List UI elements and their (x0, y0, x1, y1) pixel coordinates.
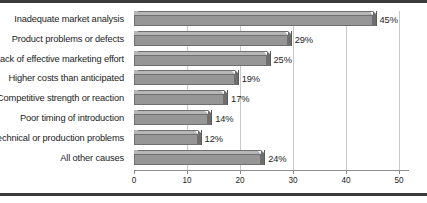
bar (134, 11, 373, 22)
bar-front-face (134, 94, 224, 105)
bar (134, 51, 267, 62)
category-label: Technical or production problems (0, 132, 124, 144)
x-axis-tick-label: 50 (394, 176, 403, 185)
x-axis-tick (187, 170, 188, 174)
x-axis-line (134, 170, 409, 171)
bar-top-edge (138, 70, 235, 71)
bar-top-edge (138, 130, 198, 131)
bar-value-label: 19% (242, 74, 260, 84)
category-label: Product problems or defects (12, 33, 124, 45)
bar-side-edge (227, 90, 228, 105)
x-axis-tick (240, 170, 241, 174)
bar-side-edge (264, 150, 265, 165)
bar-front-face (134, 35, 288, 46)
category-label: Poor timing of introduction (20, 112, 124, 124)
category-label: Lack of effective marketing effort (0, 53, 124, 65)
bar (134, 70, 235, 81)
bar-side-edge (201, 130, 202, 145)
x-axis-tick (399, 170, 400, 174)
bar-value-label: 12% (205, 134, 223, 144)
category-label: Competitive strength or reaction (0, 92, 124, 104)
x-axis-tick-label: 0 (132, 176, 137, 185)
category-axis-labels: Inadequate market analysis Product probl… (0, 3, 128, 171)
bar-value-label: 24% (268, 154, 286, 164)
bar-top-edge (138, 31, 288, 32)
bar-top-edge (138, 51, 267, 52)
bar-front-face (134, 114, 208, 125)
bar-side-edge (376, 11, 377, 26)
bar (134, 150, 261, 161)
category-label: All other causes (60, 152, 124, 164)
bar-top-edge (138, 90, 224, 91)
bar-front-face (134, 134, 198, 145)
bottom-divider-rule (0, 193, 427, 196)
bar-front-face (134, 55, 267, 66)
plot-area: 01020304050 45%29%25%19%17%14%12%24% (128, 3, 418, 193)
bar-top-edge (138, 110, 208, 111)
category-label: Inadequate market analysis (14, 13, 124, 25)
bar (134, 90, 224, 101)
bar (134, 130, 198, 141)
bar-front-face (134, 15, 373, 26)
category-label: Higher costs than anticipated (8, 72, 124, 84)
gridline (346, 11, 347, 170)
x-axis-tick (293, 170, 294, 174)
bar-side-edge (238, 70, 239, 85)
x-axis-tick-label: 30 (288, 176, 297, 185)
chart-screenshot: Inadequate market analysis Product probl… (0, 0, 427, 203)
x-axis-tick-label: 20 (235, 176, 244, 185)
bar-chart: Inadequate market analysis Product probl… (0, 3, 427, 193)
bar-side-edge (291, 31, 292, 46)
bar-value-label: 17% (231, 94, 249, 104)
bar (134, 31, 288, 42)
bar-top-edge (138, 150, 261, 151)
x-axis-tick-label: 10 (182, 176, 191, 185)
x-axis-tick-label: 40 (341, 176, 350, 185)
gridline (399, 11, 400, 170)
bar-side-edge (270, 51, 271, 66)
bar-top-edge (138, 11, 373, 12)
bar (134, 110, 208, 121)
bar-value-label: 29% (295, 35, 313, 45)
bar-value-label: 45% (380, 15, 398, 25)
bar-value-label: 25% (274, 55, 292, 65)
x-axis-tick (134, 170, 135, 174)
bar-side-edge (211, 110, 212, 125)
bar-front-face (134, 154, 261, 165)
bar-value-label: 14% (215, 114, 233, 124)
x-axis-tick (346, 170, 347, 174)
bar-front-face (134, 74, 235, 85)
